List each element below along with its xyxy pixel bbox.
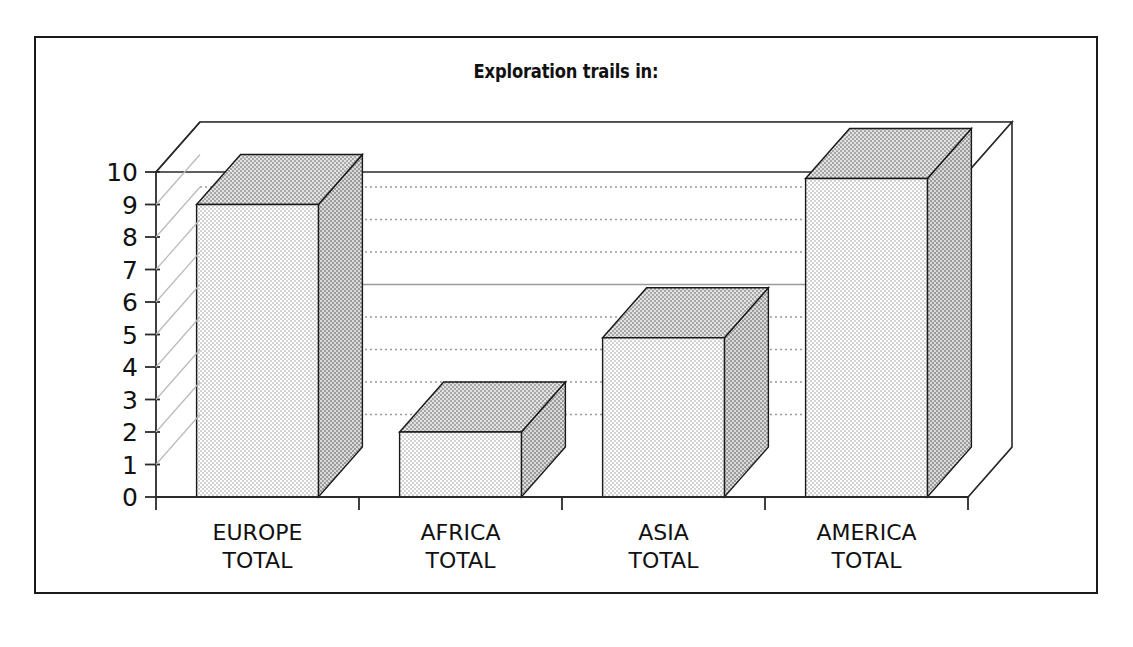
x-category-label: ASIA (638, 520, 689, 545)
y-tick-label: 4 (122, 353, 138, 382)
y-depth-rail-8 (156, 187, 200, 237)
x-category-label: AFRICA (421, 520, 501, 545)
bar-side-face (318, 155, 362, 498)
x-category-label: TOTAL (425, 548, 497, 573)
y-tick-label: 6 (122, 288, 138, 317)
y-tick-label: 8 (122, 223, 138, 252)
y-depth-rail-5 (156, 285, 200, 335)
x-category-label: TOTAL (222, 548, 294, 573)
y-depth-rail-3 (156, 350, 200, 400)
bar-front-face (400, 432, 522, 497)
y-tick-label: 5 (122, 321, 138, 350)
x-category-label: TOTAL (831, 548, 903, 573)
y-depth-rail-4 (156, 317, 200, 367)
y-tick-label: 7 (122, 256, 138, 285)
y-depth-rail-7 (156, 220, 200, 270)
y-axis-tick-labels: 109876543210 (106, 158, 138, 512)
bar-america-total (806, 129, 972, 498)
x-axis-category-labels: EUROPETOTALAFRICATOTALASIATOTALAMERICATO… (213, 520, 917, 573)
y-tick-label: 1 (122, 451, 138, 480)
y-depth-rail-6 (156, 252, 200, 302)
y-tick-label: 10 (106, 158, 138, 187)
y-tick-label: 3 (122, 386, 138, 415)
bar-front-face (197, 205, 319, 498)
y-tick-label: 2 (122, 418, 138, 447)
x-category-label: AMERICA (816, 520, 916, 545)
bar-side-face (927, 129, 971, 498)
x-category-label: EUROPE (213, 520, 303, 545)
bars-group (197, 129, 972, 498)
y-tick-label: 0 (122, 483, 138, 512)
bar-chart-plot: 109876543210 EUROPETOTALAFRICATOTALASIAT… (34, 36, 1098, 594)
bar-front-face (806, 179, 928, 498)
x-category-label: TOTAL (628, 548, 700, 573)
bar-europe-total (197, 155, 363, 498)
bar-asia-total (603, 288, 769, 497)
y-depth-rail-2 (156, 382, 200, 432)
figure-root: Exploration trails in: 109876543210 EURO… (0, 0, 1133, 647)
back-wall-right-panel (968, 122, 1012, 497)
y-tick-label: 9 (122, 191, 138, 220)
y-axis-group (145, 122, 200, 497)
bar-front-face (603, 338, 725, 497)
